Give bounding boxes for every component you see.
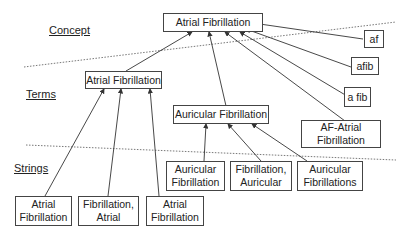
level-label-strings: Strings	[14, 162, 48, 174]
string-node: Auricular Fibrillation	[166, 161, 225, 191]
synonym-node: a fib	[344, 87, 371, 107]
term-node: Auricular Fibrillation	[173, 105, 269, 124]
level-label-concept: Concept	[49, 24, 90, 36]
concept-node: Atrial Fibrillation	[163, 13, 263, 32]
node-line: Atrial	[163, 198, 187, 211]
string-node: Auricular Fibrillations	[297, 161, 363, 191]
node-line: AF-Atrial	[321, 121, 362, 134]
node-line: Fibrillation	[151, 211, 199, 224]
synonym-node: AF-Atrial Fibrillation	[301, 120, 381, 148]
node-line: Auricular	[309, 163, 350, 176]
string-node: Atrial Fibrillation	[15, 196, 72, 226]
node-line: Fibrillations	[303, 176, 356, 189]
synonym-node: af	[364, 30, 384, 48]
node-line: Atrial	[32, 198, 56, 211]
synonym-node: afib	[351, 57, 379, 75]
term-node: Atrial Fibrillation	[85, 71, 162, 89]
node-line: Auricular	[175, 163, 216, 176]
level-label-terms: Terms	[26, 88, 56, 100]
node-line: Fibrillation,	[236, 163, 287, 176]
string-node: Fibrillation, Auricular	[230, 161, 292, 191]
node-line: Atrial	[97, 211, 121, 224]
node-line: Fibrillation,	[83, 198, 134, 211]
diagram-canvas: Concept Terms Strings Atrial Fibrillatio…	[0, 0, 396, 238]
node-line: Auricular	[240, 176, 281, 189]
node-line: Fibrillation	[172, 176, 220, 189]
node-line: Fibrillation	[317, 134, 365, 147]
string-node: Fibrillation, Atrial	[78, 196, 139, 226]
node-line: Fibrillation	[20, 211, 68, 224]
string-node: Atrial Fibrillation	[146, 196, 204, 226]
